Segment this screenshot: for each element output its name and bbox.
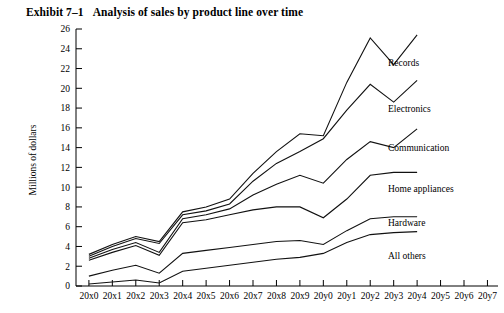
y-tick-label: 24	[61, 44, 71, 54]
y-tick-label: 8	[65, 202, 70, 212]
x-tick-label: 20x7	[244, 291, 263, 301]
y-tick-label: 14	[61, 143, 71, 153]
x-tick-label: 20y1	[337, 291, 356, 301]
y-tick-label: 6	[65, 222, 70, 232]
x-tick-label: 20y7	[478, 291, 497, 301]
y-tick-group: 02468101214161820222426	[61, 24, 83, 291]
series-label-electronics: Electronics	[388, 104, 431, 114]
series-label-group: RecordsElectronicsCommunicationHome appl…	[388, 58, 454, 261]
x-tick-label: 20y2	[361, 291, 380, 301]
x-tick-label: 20x2	[126, 291, 145, 301]
x-tick-label: 20x8	[267, 291, 286, 301]
y-tick-label: 2	[65, 262, 70, 272]
y-tick-label: 26	[61, 24, 71, 34]
series-line-records	[89, 35, 417, 254]
x-tick-label: 20x0	[79, 291, 98, 301]
series-label-records: Records	[388, 58, 419, 68]
y-tick-label: 20	[61, 84, 71, 94]
exhibit-page: Exhibit 7–1Analysis of sales by product …	[0, 0, 504, 313]
y-tick-label: 22	[61, 64, 71, 74]
y-tick-label: 0	[65, 281, 70, 291]
y-tick-label: 4	[65, 242, 70, 252]
x-tick-label: 20x9	[290, 291, 309, 301]
y-tick-label: 16	[61, 123, 71, 133]
x-tick-label: 20y5	[431, 291, 450, 301]
line-chart: 02468101214161820222426 20x020x120x220x3…	[0, 0, 504, 313]
series-label-home-appliances: Home appliances	[388, 184, 454, 194]
series-line-electronics	[89, 80, 417, 256]
x-tick-label: 20x3	[150, 291, 169, 301]
series-line-group	[89, 35, 417, 284]
x-tick-label: 20x5	[197, 291, 216, 301]
series-line-home-appliances	[89, 172, 417, 260]
series-label-hardware: Hardware	[388, 218, 425, 228]
x-tick-label: 20x6	[220, 291, 239, 301]
y-tick-label: 10	[61, 183, 71, 193]
x-tick-label: 20y6	[455, 291, 474, 301]
x-tick-label: 20y3	[384, 291, 403, 301]
y-axis-title: Millions of dollars	[28, 124, 38, 195]
x-tick-label: 20x1	[103, 291, 122, 301]
x-tick-group: 20x020x120x220x320x420x520x620x720x820x9…	[79, 280, 497, 301]
y-tick-label: 18	[61, 103, 71, 113]
series-label-all-others: All others	[388, 251, 426, 261]
series-label-communication: Communication	[388, 143, 449, 153]
y-tick-label: 12	[61, 163, 71, 173]
x-tick-label: 20y4	[408, 291, 427, 301]
x-tick-label: 20y0	[314, 291, 333, 301]
x-tick-label: 20x4	[173, 291, 192, 301]
